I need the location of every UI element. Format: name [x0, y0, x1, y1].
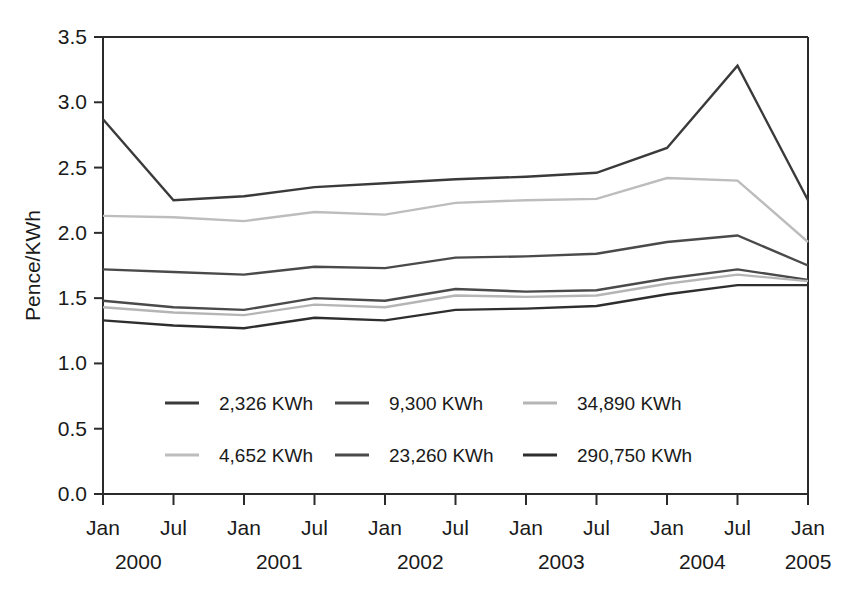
y-tick-label: 0.5 — [58, 417, 87, 440]
x-tick-year-label: 2000 — [115, 550, 162, 573]
x-tick-month-label: Jul — [583, 516, 610, 539]
x-tick-year-label: 2003 — [538, 550, 585, 573]
x-tick-month-label: Jan — [791, 516, 825, 539]
legend-label: 2,326 KWh — [219, 393, 313, 414]
x-tick-year-label: 2002 — [397, 550, 444, 573]
legend-label: 9,300 KWh — [389, 393, 483, 414]
y-axis-labels: 0.00.51.01.52.02.53.03.5 — [58, 25, 87, 505]
legend-label: 23,260 KWh — [389, 445, 494, 466]
x-tick-month-label: Jan — [509, 516, 543, 539]
x-tick-month-label: Jul — [160, 516, 187, 539]
x-tick-month-label: Jan — [227, 516, 261, 539]
x-tick-year-label: 2001 — [256, 550, 303, 573]
line-chart: 0.00.51.01.52.02.53.03.5 JanJulJanJulJan… — [0, 0, 848, 601]
y-tick-label: 2.0 — [58, 221, 87, 244]
y-tick-label: 0.0 — [58, 482, 87, 505]
y-axis-title: Pence/KWh — [21, 210, 44, 321]
y-axis-title-text: Pence/KWh — [21, 210, 44, 321]
y-tick-label: 1.5 — [58, 286, 87, 309]
series-line — [103, 178, 808, 242]
x-tick-month-label: Jan — [86, 516, 120, 539]
y-tick-label: 1.0 — [58, 351, 87, 374]
x-tick-month-label: Jan — [368, 516, 402, 539]
chart-container: 0.00.51.01.52.02.53.03.5 JanJulJanJulJan… — [0, 0, 848, 601]
y-tick-label: 2.5 — [58, 156, 87, 179]
x-tick-year-label: 2005 — [785, 550, 832, 573]
x-tick-month-label: Jul — [442, 516, 469, 539]
x-axis-labels: JanJulJanJulJanJulJanJulJanJulJan2000200… — [86, 516, 831, 573]
series-line — [103, 235, 808, 274]
chart-legend: 2,326 KWh9,300 KWh34,890 KWh4,652 KWh23,… — [165, 393, 692, 466]
y-tick-label: 3.0 — [58, 90, 87, 113]
x-tick-month-label: Jan — [650, 516, 684, 539]
series-layer — [103, 66, 808, 328]
legend-label: 290,750 KWh — [577, 445, 692, 466]
x-tick-month-label: Jul — [724, 516, 751, 539]
legend-label: 4,652 KWh — [219, 445, 313, 466]
legend-label: 34,890 KWh — [577, 393, 682, 414]
x-tick-month-label: Jul — [301, 516, 328, 539]
y-tick-label: 3.5 — [58, 25, 87, 48]
x-tick-year-label: 2004 — [679, 550, 726, 573]
series-line — [103, 285, 808, 328]
